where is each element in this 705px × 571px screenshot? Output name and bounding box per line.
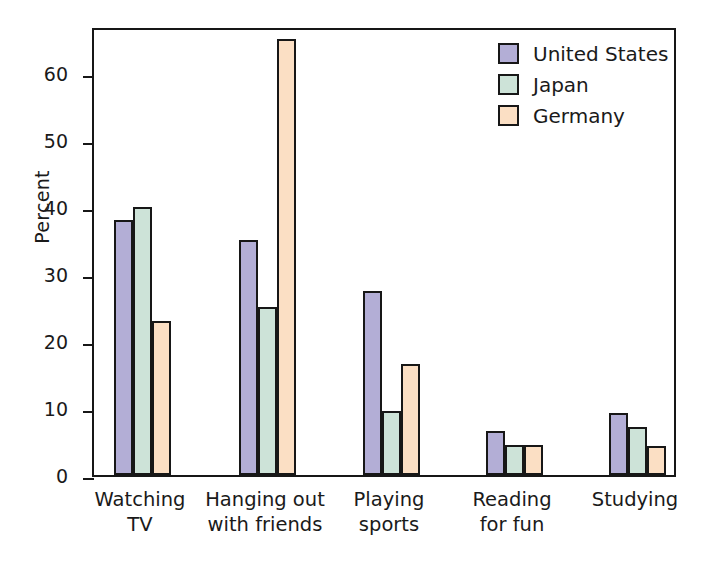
y-tick-50: [83, 143, 94, 145]
legend-item-germany: Germany: [498, 100, 678, 131]
legend-item-united-states: United States: [498, 38, 678, 69]
x-label-4-line1: Studying: [592, 488, 678, 511]
bar-2-0: [363, 291, 382, 475]
legend-swatch-germany: [498, 105, 519, 126]
x-label-1-line1: Hanging out: [205, 488, 325, 511]
bar-3-0: [486, 431, 505, 475]
legend-swatch-united-states: [498, 43, 519, 64]
bar-3-2: [524, 445, 543, 475]
bar-3-1: [505, 445, 524, 475]
bar-0-2: [152, 321, 171, 475]
x-label-3-line2: for fun: [437, 512, 587, 537]
y-tick-20: [83, 344, 94, 346]
bar-2-2: [401, 364, 420, 475]
y-tick-label-60: 60: [22, 65, 68, 84]
bar-4-1: [628, 427, 647, 475]
bar-1-2: [277, 39, 296, 475]
y-tick-40: [83, 210, 94, 212]
bar-1-1: [258, 307, 277, 475]
y-tick-label-30: 30: [22, 266, 68, 285]
legend-label-united-states: United States: [533, 44, 668, 64]
bar-chart: Percent 0102030405060 WatchingTVHanging …: [0, 0, 705, 571]
y-tick-label-0: 0: [22, 467, 68, 486]
y-tick-10: [83, 411, 94, 413]
y-tick-label-40: 40: [22, 199, 68, 218]
bar-2-1: [382, 411, 401, 475]
x-label-4: Studying: [560, 487, 705, 512]
x-label-2-line1: Playing: [354, 488, 425, 511]
legend: United States Japan Germany: [498, 38, 678, 131]
y-tick-0: [83, 478, 94, 480]
y-tick-label-20: 20: [22, 333, 68, 352]
x-label-3-line1: Reading: [472, 488, 551, 511]
legend-item-japan: Japan: [498, 69, 678, 100]
y-tick-30: [83, 277, 94, 279]
bar-1-0: [239, 240, 258, 475]
bar-4-0: [609, 413, 628, 475]
bar-0-0: [114, 220, 133, 475]
y-tick-60: [83, 76, 94, 78]
legend-label-germany: Germany: [533, 106, 625, 126]
legend-label-japan: Japan: [533, 75, 589, 95]
y-tick-label-10: 10: [22, 400, 68, 419]
legend-swatch-japan: [498, 74, 519, 95]
y-tick-label-50: 50: [22, 132, 68, 151]
x-label-0-line1: Watching: [95, 488, 186, 511]
bar-0-1: [133, 207, 152, 475]
bar-4-2: [647, 446, 666, 475]
